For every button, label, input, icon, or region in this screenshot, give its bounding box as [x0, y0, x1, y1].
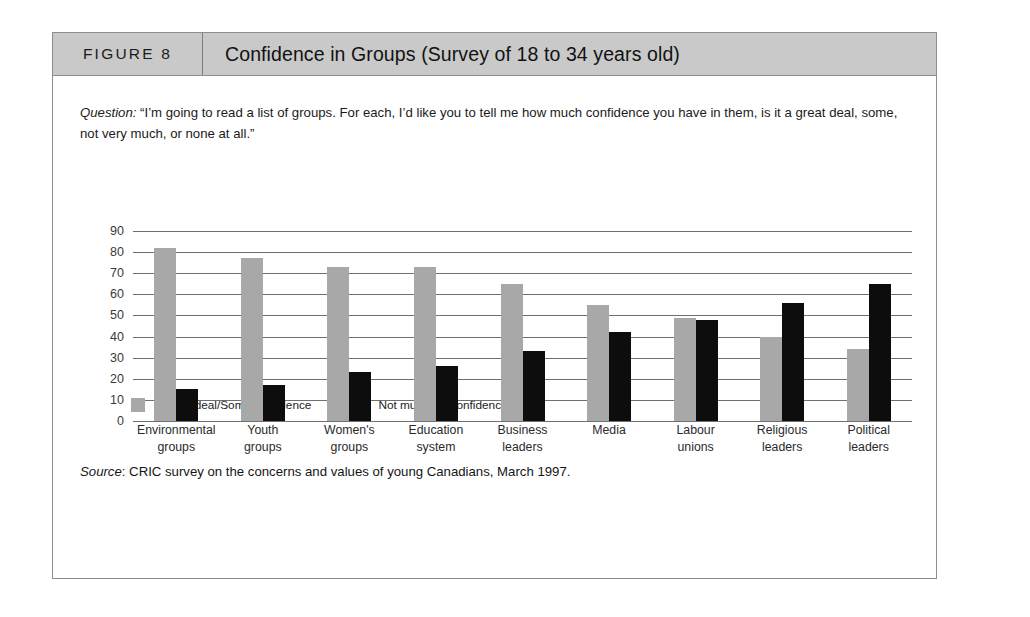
bar-gray-5: [587, 305, 609, 421]
bar-black-8: [869, 284, 891, 421]
bar-black-5: [609, 332, 631, 421]
axis-baseline: [133, 421, 912, 422]
bar-black-3: [436, 366, 458, 421]
figure-header: FIGURE 8 Confidence in Groups (Survey of…: [52, 32, 937, 76]
y-axis-tick-60: 60: [110, 287, 124, 301]
bar-black-7: [782, 303, 804, 421]
question-text: “I’m going to read a list of groups. For…: [80, 105, 897, 141]
bar-gray-1: [241, 258, 263, 421]
question-prefix: Question:: [80, 105, 136, 120]
figure-number-label: FIGURE 8: [83, 45, 172, 63]
y-axis-tick-10: 10: [110, 393, 124, 407]
x-axis-label-7: Religious leaders: [739, 422, 826, 455]
x-axis-label-5: Media: [566, 422, 653, 439]
y-axis-tick-70: 70: [110, 266, 124, 280]
bar-black-1: [263, 385, 285, 421]
bar-gray-0: [154, 248, 176, 421]
gridline-90: 90: [133, 231, 912, 232]
bar-gray-4: [501, 284, 523, 421]
y-axis-tick-20: 20: [110, 372, 124, 386]
bar-gray-3: [414, 267, 436, 421]
bar-black-2: [349, 372, 371, 421]
y-axis-tick-80: 80: [110, 245, 124, 259]
bar-gray-8: [847, 349, 869, 421]
y-axis-tick-30: 30: [110, 351, 124, 365]
x-axis-label-2: Women's groups: [306, 422, 393, 455]
figure-title-cell: Confidence in Groups (Survey of 18 to 34…: [203, 33, 936, 75]
x-axis-label-3: Education system: [393, 422, 480, 455]
x-axis-label-6: Labour unions: [652, 422, 739, 455]
figure-title: Confidence in Groups (Survey of 18 to 34…: [225, 43, 680, 66]
gridline-80: 80: [133, 252, 912, 253]
y-axis-tick-90: 90: [110, 224, 124, 238]
plot-area: 9080706050403020100: [133, 232, 912, 422]
y-axis-tick-40: 40: [110, 330, 124, 344]
bar-black-0: [176, 389, 198, 421]
bar-gray-2: [327, 267, 349, 421]
source-text: : CRIC survey on the concerns and values…: [122, 464, 571, 479]
x-axis-label-0: Environmental groups: [133, 422, 220, 455]
y-axis-tick-50: 50: [110, 308, 124, 322]
figure-container: FIGURE 8 Confidence in Groups (Survey of…: [52, 32, 937, 579]
y-axis-tick-0: 0: [117, 414, 124, 428]
x-axis-label-1: Youth groups: [220, 422, 307, 455]
question-block: Question: “I’m going to read a list of g…: [80, 102, 910, 144]
figure-number-cell: FIGURE 8: [53, 33, 203, 75]
bar-black-6: [696, 320, 718, 421]
x-axis-label-8: Political leaders: [825, 422, 912, 455]
bar-gray-7: [760, 337, 782, 421]
legend-swatch-gray: [131, 398, 145, 412]
bar-chart: 9080706050403020100 Environmental groups…: [80, 226, 912, 466]
figure-body: Question: “I’m going to read a list of g…: [52, 76, 937, 579]
bar-gray-6: [674, 318, 696, 421]
bar-black-4: [523, 351, 545, 421]
source-line: Source: CRIC survey on the concerns and …: [80, 464, 570, 479]
x-axis-label-4: Business leaders: [479, 422, 566, 455]
source-prefix: Source: [80, 464, 122, 479]
